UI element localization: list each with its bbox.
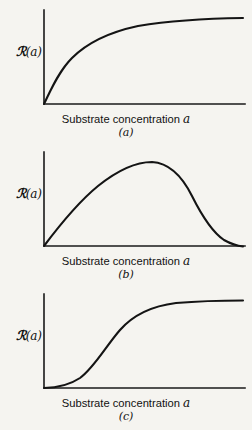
x-axis-label-b: Substrate concentration a xyxy=(0,254,252,268)
plot-panel-b: ℛ(a) Substrate concentration a (b) xyxy=(0,142,252,282)
x-axis-variable-b: a xyxy=(183,254,190,268)
y-axis-arg-a: (a) xyxy=(26,45,42,59)
x-axis-label-a: Substrate concentration a xyxy=(0,112,252,126)
x-axis-label-text-c: Substrate concentration xyxy=(62,397,183,409)
script-r-symbol-a: ℛ xyxy=(16,44,26,59)
panel-caption-a: (a) xyxy=(0,126,252,139)
x-axis-variable-a: a xyxy=(183,112,190,126)
x-axis-label-c: Substrate concentration a xyxy=(0,396,252,410)
x-axis-variable-c: a xyxy=(183,396,190,410)
y-axis-arg-b: (a) xyxy=(26,187,42,201)
script-r-symbol-c: ℛ xyxy=(16,328,26,343)
plot-panel-a: ℛ(a) Substrate concentration a (a) xyxy=(0,0,252,140)
y-axis-label-b: ℛ(a) xyxy=(16,186,62,201)
y-axis-arg-c: (a) xyxy=(26,329,42,343)
saturating-hyperbola-curve xyxy=(44,18,243,104)
plot-panel-c: ℛ(a) Substrate concentration a (c) xyxy=(0,284,252,424)
script-r-symbol-b: ℛ xyxy=(16,186,26,201)
bell-shaped-curve xyxy=(44,162,243,247)
sigmoid-curve xyxy=(44,301,243,389)
panel-caption-b: (b) xyxy=(0,268,252,281)
y-axis-label-c: ℛ(a) xyxy=(16,328,62,343)
axes-c xyxy=(44,294,245,388)
y-axis-label-a: ℛ(a) xyxy=(16,44,62,59)
x-axis-label-text-a: Substrate concentration xyxy=(62,113,183,125)
figure-stack: ℛ(a) Substrate concentration a (a) ℛ(a) … xyxy=(0,0,252,430)
panel-caption-c: (c) xyxy=(0,410,252,423)
x-axis-label-text-b: Substrate concentration xyxy=(62,255,183,267)
